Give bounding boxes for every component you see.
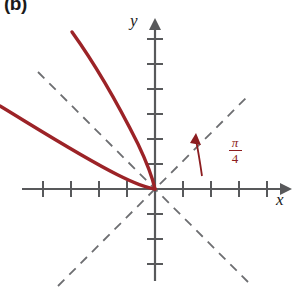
dashed-line-y-equals-x [58,98,246,286]
angle-label-numerator: π [224,136,246,150]
curve-shallow [0,106,155,189]
y-axis-arrowhead [149,18,161,30]
figure-panel-b: (b) [0,0,294,292]
y-axis-label: y [130,11,138,31]
curve-steep [72,32,155,189]
angle-label-pi-over-four: π 4 [224,136,246,165]
coordinate-plot [0,0,294,292]
x-axis-label: x [276,190,284,210]
angle-label-denominator: 4 [224,151,246,165]
angle-arrow-head [190,133,201,145]
dashed-line-y-equals-minus-x [38,72,252,286]
